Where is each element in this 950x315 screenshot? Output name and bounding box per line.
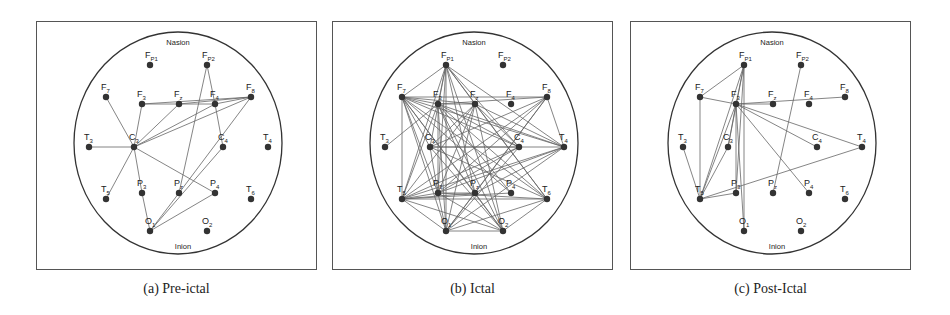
electrode-label-O1: O1 xyxy=(145,216,156,228)
electrode-F3 xyxy=(139,101,145,107)
electrode-label-F8: F8 xyxy=(542,82,552,94)
electrode-F8 xyxy=(842,94,848,100)
edge-FP1-C4 xyxy=(446,65,519,147)
edge-FP2-Pz xyxy=(773,65,801,193)
electrode-label-C3: C3 xyxy=(723,132,734,144)
electrode-label-O2: O2 xyxy=(796,216,807,228)
electrode-FP1 xyxy=(741,62,747,68)
edge-FP1-F7 xyxy=(700,65,744,97)
electrode-F7 xyxy=(103,94,109,100)
electrode-F4 xyxy=(508,101,514,107)
electrode-label-FP1: FP1 xyxy=(145,50,159,62)
electrode-T4 xyxy=(561,144,567,150)
electrode-label-F4: F4 xyxy=(804,89,814,101)
edge-F3-F8 xyxy=(736,97,845,104)
panel-post-ictal: NasionInionFP1FP2F7F3FzF4F8T3C3C4T4T5P3P… xyxy=(630,21,911,270)
edge-F3-T4 xyxy=(736,104,862,147)
electrode-label-FP1: FP1 xyxy=(739,50,753,62)
electrode-label-T3: T3 xyxy=(678,132,688,144)
electrode-F7 xyxy=(697,94,703,100)
electrode-label-T5: T5 xyxy=(397,184,407,196)
electrode-T3 xyxy=(86,144,92,150)
electrode-label-FP2: FP2 xyxy=(202,50,216,62)
electrode-label-P4: P4 xyxy=(210,178,220,190)
electrode-label-Fz: Fz xyxy=(768,89,777,101)
head-outline xyxy=(74,32,282,254)
electrode-label-O1: O1 xyxy=(441,216,452,228)
electrode-label-F7: F7 xyxy=(695,82,705,94)
electrode-label-Pz: Pz xyxy=(470,178,479,190)
electrode-T5 xyxy=(103,196,109,202)
electrode-label-T3: T3 xyxy=(84,132,94,144)
electrode-T3 xyxy=(680,144,686,150)
electrode-label-P3: P3 xyxy=(433,178,443,190)
electrode-label-T6: T6 xyxy=(542,184,552,196)
electrode-Fz xyxy=(472,101,478,107)
electrode-label-F4: F4 xyxy=(506,89,516,101)
electrode-label-T5: T5 xyxy=(695,184,705,196)
electrode-FP1 xyxy=(443,62,449,68)
electrode-F8 xyxy=(248,94,254,100)
electrode-F8 xyxy=(544,94,550,100)
electrode-label-P3: P3 xyxy=(137,178,147,190)
electrode-FP2 xyxy=(204,62,210,68)
edge-T6-O2 xyxy=(503,199,547,231)
electrode-label-Fz: Fz xyxy=(470,89,479,101)
caption-post-ictal: (c) Post-Ictal xyxy=(630,281,911,297)
electrode-label-T4: T4 xyxy=(263,132,273,144)
electrode-P3 xyxy=(139,190,145,196)
electrode-label-FP2: FP2 xyxy=(498,50,512,62)
electrode-F3 xyxy=(733,101,739,107)
electrode-T5 xyxy=(399,196,405,202)
electrode-label-Fz: Fz xyxy=(174,89,183,101)
edge-C3-F8 xyxy=(134,97,251,147)
electrode-label-C3: C3 xyxy=(425,132,436,144)
caption-pre-ictal: (a) Pre-ictal xyxy=(36,281,317,297)
electrode-FP2 xyxy=(798,62,804,68)
electrode-label-C4: C4 xyxy=(218,132,229,144)
electrode-label-FP1: FP1 xyxy=(441,50,455,62)
electrode-label-T6: T6 xyxy=(246,184,256,196)
electrode-label-FP2: FP2 xyxy=(796,50,810,62)
edge-C3-T5 xyxy=(106,147,134,199)
electrode-label-T4: T4 xyxy=(559,132,569,144)
electrode-O2 xyxy=(500,228,506,234)
electrode-P4 xyxy=(508,190,514,196)
electrode-Pz xyxy=(176,190,182,196)
electrode-label-F4: F4 xyxy=(210,89,220,101)
edge-FP1-T4 xyxy=(446,65,564,147)
electrode-T6 xyxy=(544,196,550,202)
electrode-C3 xyxy=(131,144,137,150)
electrode-label-F7: F7 xyxy=(101,82,111,94)
edge-C3-F4 xyxy=(134,104,215,147)
electrode-label-O2: O2 xyxy=(202,216,213,228)
electrode-label-C4: C4 xyxy=(514,132,525,144)
edge-F3-C4 xyxy=(736,104,817,147)
edge-T5-O1 xyxy=(402,199,446,231)
electrode-F7 xyxy=(399,94,405,100)
electrode-F4 xyxy=(212,101,218,107)
electrode-O1 xyxy=(443,228,449,234)
electrode-T6 xyxy=(842,196,848,202)
electrode-P4 xyxy=(806,190,812,196)
edge-T5-P3 xyxy=(700,193,736,199)
electrode-label-P3: P3 xyxy=(731,178,741,190)
edge-T4-Pz xyxy=(475,147,564,193)
electrode-label-C3: C3 xyxy=(129,132,140,144)
connection-edges xyxy=(89,65,251,231)
nasion-label: Nasion xyxy=(166,38,189,47)
electrode-T4 xyxy=(859,144,865,150)
electrode-O2 xyxy=(798,228,804,234)
electrode-label-P4: P4 xyxy=(804,178,814,190)
electrode-label-T5: T5 xyxy=(101,184,111,196)
electrode-C3 xyxy=(427,144,433,150)
electrode-F4 xyxy=(806,101,812,107)
electrode-label-O2: O2 xyxy=(498,216,509,228)
electrode-label-P4: P4 xyxy=(506,178,516,190)
electrode-T6 xyxy=(248,196,254,202)
electrode-C3 xyxy=(725,144,731,150)
edge-T6-O1 xyxy=(446,199,547,231)
electrode-Fz xyxy=(770,101,776,107)
electrode-O1 xyxy=(741,228,747,234)
electrode-FP1 xyxy=(147,62,153,68)
